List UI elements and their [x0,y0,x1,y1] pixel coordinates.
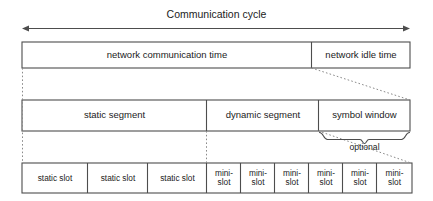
mini-slot-2: mini- slot [241,163,275,193]
communication-cycle-arrow [22,26,410,32]
network-communication-time-label: network communication time [22,42,312,68]
symbol-window-label: symbol window [319,100,410,131]
arrow-head-right [403,26,410,32]
mini-slot-3: mini- slot [275,163,309,193]
guide-diagonal-upper [312,68,411,100]
arrow-head-left [22,26,29,32]
mini-slot-1-label-line2: slot [218,178,231,187]
static-slot-3-label: static slot [148,163,207,193]
mini-slot-5: mini- slot [343,163,377,193]
mini-slot-4-label-line2: slot [320,178,333,187]
dynamic-segment-label: dynamic segment [207,100,319,131]
page-title: Communication cycle [0,9,433,20]
flexray-communication-cycle-diagram: Communication cycle network communicatio… [0,0,433,201]
mini-slot-5-label-line2: slot [354,178,367,187]
network-idle-time-label: network idle time [312,42,410,68]
static-slot-2-label: static slot [88,163,148,193]
optional-annotation-label: optional [338,143,391,152]
mini-slot-1: mini- slot [207,163,241,193]
mini-slot-3-label-line2: slot [286,178,299,187]
static-segment-label: static segment [22,100,207,131]
mini-slot-4: mini- slot [309,163,343,193]
static-slot-1-label: static slot [22,163,88,193]
mini-slot-2-label-line2: slot [252,178,265,187]
mini-slot-6: mini- slot [377,163,412,193]
mini-slot-6-label-line2: slot [388,178,401,187]
